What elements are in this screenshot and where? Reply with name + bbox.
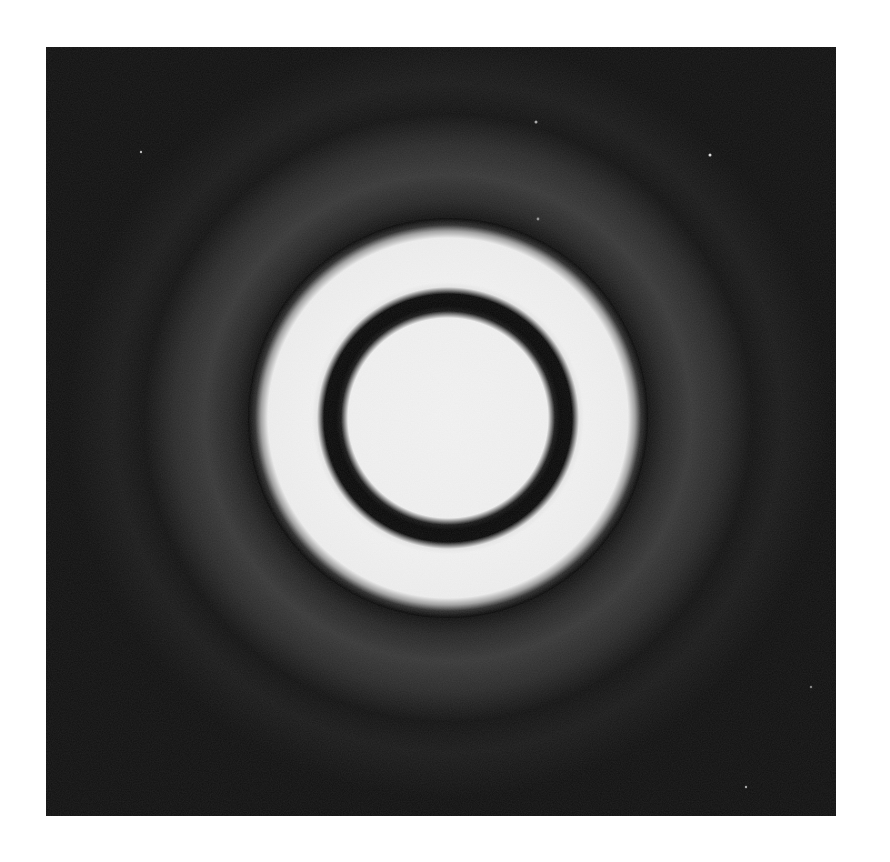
- dust-speck: [535, 121, 538, 124]
- dust-speck: [537, 218, 540, 221]
- dust-speck: [810, 686, 812, 688]
- diffraction-pattern: [46, 47, 836, 816]
- dust-speck: [140, 151, 142, 153]
- dust-speck: [709, 154, 712, 157]
- film-grain: [46, 47, 836, 816]
- dust-speck: [745, 786, 747, 788]
- diffraction-photo: [46, 47, 836, 816]
